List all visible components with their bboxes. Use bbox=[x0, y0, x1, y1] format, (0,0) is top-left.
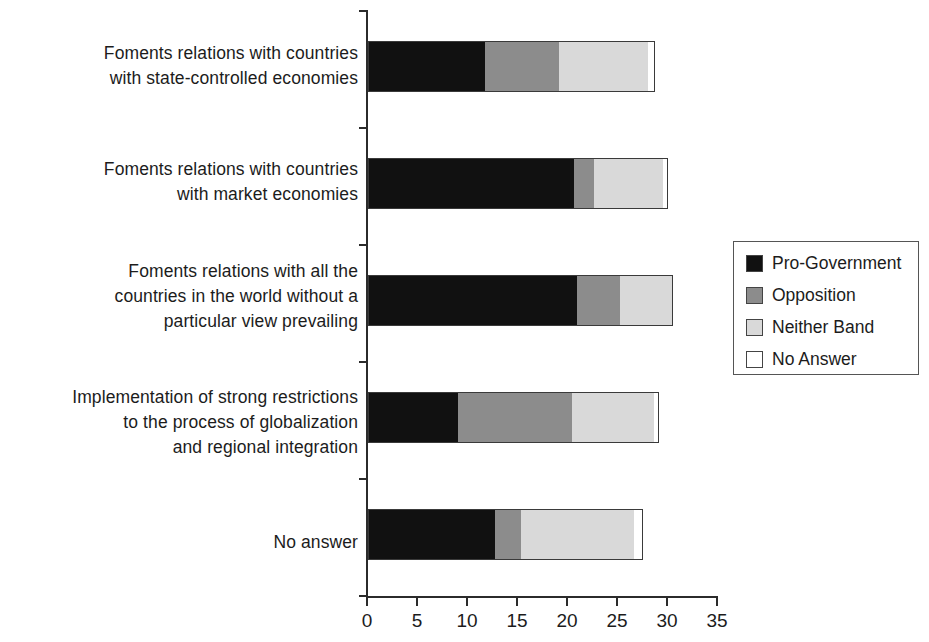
category-label-0: Foments relations with countries with st… bbox=[0, 41, 358, 91]
x-axis-tick-label: 35 bbox=[695, 610, 739, 632]
legend-item-opposition: Opposition bbox=[746, 282, 856, 308]
x-axis-tick bbox=[616, 598, 618, 606]
bar-category-4 bbox=[368, 509, 643, 560]
bar-segment-pro-government bbox=[368, 509, 495, 560]
category-label-2: Foments relations with all the countries… bbox=[0, 259, 358, 334]
legend-label-neither-band: Neither Band bbox=[772, 317, 874, 338]
bar-segment-opposition bbox=[574, 158, 594, 209]
x-axis-tick-label: 20 bbox=[545, 610, 589, 632]
y-axis-tick bbox=[359, 361, 366, 363]
bar-segment-no-answer bbox=[663, 158, 668, 209]
legend-label-no-answer: No Answer bbox=[772, 349, 857, 370]
legend-swatch-opposition-icon bbox=[746, 287, 763, 304]
legend-swatch-no-answer-icon bbox=[746, 351, 763, 368]
bar-segment-opposition bbox=[485, 41, 559, 92]
legend-item-no-answer: No Answer bbox=[746, 346, 857, 372]
bar-segment-pro-government bbox=[368, 41, 485, 92]
legend-swatch-pro-government-icon bbox=[746, 255, 763, 272]
bar-segment-pro-government bbox=[368, 158, 574, 209]
x-axis-tick bbox=[566, 598, 568, 606]
x-axis-tick bbox=[466, 598, 468, 606]
bar-category-3 bbox=[368, 392, 659, 443]
bar-category-0 bbox=[368, 41, 655, 92]
legend-label-pro-government: Pro-Government bbox=[772, 253, 901, 274]
bar-category-2 bbox=[368, 275, 673, 326]
bar-segment-no-answer bbox=[634, 509, 643, 560]
x-axis-tick-label: 0 bbox=[345, 610, 389, 632]
x-axis-tick bbox=[666, 598, 668, 606]
plot-area: 05101520253035 bbox=[366, 10, 721, 597]
x-axis-tick bbox=[416, 598, 418, 606]
bar-segment-neither-band bbox=[572, 392, 654, 443]
stacked-bar-chart: Foments relations with countries with st… bbox=[0, 0, 929, 642]
y-axis-tick bbox=[359, 478, 366, 480]
x-axis-tick-label: 10 bbox=[445, 610, 489, 632]
chart-legend: Pro-Government Opposition Neither Band N… bbox=[733, 241, 919, 375]
x-axis-tick bbox=[366, 598, 368, 606]
bar-segment-neither-band bbox=[594, 158, 663, 209]
bar-segment-opposition bbox=[495, 509, 521, 560]
bar-segment-pro-government bbox=[368, 392, 458, 443]
x-axis-tick-label: 15 bbox=[495, 610, 539, 632]
legend-label-opposition: Opposition bbox=[772, 285, 856, 306]
legend-swatch-neither-band-icon bbox=[746, 319, 763, 336]
x-axis-tick-label: 25 bbox=[595, 610, 639, 632]
bar-segment-opposition bbox=[458, 392, 572, 443]
category-label-1: Foments relations with countries with ma… bbox=[0, 157, 358, 207]
legend-item-neither-band: Neither Band bbox=[746, 314, 874, 340]
legend-item-pro-government: Pro-Government bbox=[746, 250, 901, 276]
bar-segment-pro-government bbox=[368, 275, 577, 326]
bar-category-1 bbox=[368, 158, 668, 209]
category-label-4: No answer bbox=[0, 530, 358, 555]
x-axis-tick bbox=[516, 598, 518, 606]
x-axis-tick-label: 5 bbox=[395, 610, 439, 632]
category-axis-labels: Foments relations with countries with st… bbox=[0, 0, 358, 600]
y-axis-tick bbox=[359, 127, 366, 129]
y-axis-tick bbox=[359, 244, 366, 246]
y-axis-tick bbox=[359, 10, 366, 12]
bar-segment-neither-band bbox=[559, 41, 648, 92]
y-axis-tick bbox=[359, 595, 366, 597]
bar-segment-neither-band bbox=[521, 509, 634, 560]
bar-segment-opposition bbox=[577, 275, 620, 326]
x-axis-tick bbox=[716, 598, 718, 606]
bar-segment-no-answer bbox=[654, 392, 659, 443]
category-label-3: Implementation of strong restrictions to… bbox=[0, 385, 358, 460]
bar-segment-neither-band bbox=[620, 275, 673, 326]
bar-segment-no-answer bbox=[648, 41, 655, 92]
x-axis-tick-label: 30 bbox=[645, 610, 689, 632]
